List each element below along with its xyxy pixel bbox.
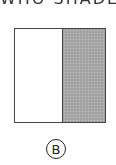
- option-letter: B: [52, 143, 61, 156]
- circled-option-label[interactable]: B: [46, 139, 66, 159]
- fraction-square: [14, 28, 106, 123]
- cut-off-caption-text: WHO SHADED: [0, 0, 116, 8]
- unshaded-half: [15, 29, 63, 122]
- shaded-half: [63, 29, 105, 122]
